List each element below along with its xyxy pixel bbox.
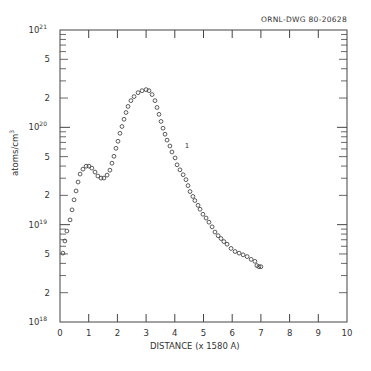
data-point — [110, 161, 114, 165]
y-tick-label: 2 — [45, 190, 50, 200]
data-point — [74, 189, 78, 193]
x-axis-label: DISTANCE (x 1580 A) — [150, 341, 240, 351]
data-point — [191, 195, 195, 199]
chart: 012345678910 1018251019251020251021 1 — [0, 0, 371, 371]
data-point — [90, 166, 94, 170]
y-tick-label: 5 — [45, 54, 50, 64]
x-tick-label: 8 — [287, 328, 292, 338]
x-tick-label: 3 — [143, 328, 148, 338]
data-point — [132, 95, 136, 99]
data-point — [118, 131, 122, 135]
data-point — [114, 146, 118, 150]
data-point — [150, 93, 154, 97]
y-axis-ticks — [60, 34, 347, 292]
data-point — [210, 225, 214, 229]
x-tick-label: 2 — [115, 328, 120, 338]
data-point — [163, 132, 167, 136]
y-tick-label: 5 — [45, 249, 50, 259]
data-point — [68, 218, 72, 222]
data-point — [241, 253, 245, 257]
data-point — [253, 259, 257, 263]
data-point — [108, 168, 112, 172]
data-point — [126, 105, 130, 109]
y-tick-label: 1019 — [29, 218, 48, 230]
data-point — [225, 242, 229, 246]
data-point — [81, 167, 85, 171]
y-axis-label-base: atoms/cm — [10, 134, 20, 176]
data-point — [78, 172, 82, 176]
data-point — [65, 229, 69, 233]
annotations: 1 — [185, 142, 189, 150]
data-point — [175, 163, 179, 167]
data-point — [120, 125, 124, 129]
data-point — [170, 150, 174, 154]
data-point — [122, 117, 126, 121]
data-point — [196, 203, 200, 207]
y-tick-label: 1018 — [29, 315, 48, 327]
data-point — [245, 255, 249, 259]
x-tick-label: 9 — [316, 328, 321, 338]
data-point — [249, 257, 253, 261]
data-point — [61, 251, 65, 255]
data-point — [198, 207, 202, 211]
x-tick-label: 0 — [57, 328, 62, 338]
data-point — [159, 120, 163, 124]
data-point — [168, 144, 172, 148]
data-point — [186, 184, 190, 188]
y-tick-label: 2 — [45, 93, 50, 103]
data-point — [219, 237, 223, 241]
y-axis-label-exp: 3 — [8, 130, 15, 134]
data-point — [193, 199, 197, 203]
y-axis-label: atoms/cm3 — [8, 130, 20, 176]
x-tick-label: 7 — [258, 328, 263, 338]
data-point — [140, 89, 144, 93]
curve-annotation: 1 — [185, 142, 189, 150]
data-point — [201, 212, 205, 216]
x-axis-tick-labels: 012345678910 — [57, 328, 352, 338]
data-point — [229, 247, 233, 251]
x-axis-ticks — [89, 30, 319, 322]
data-point — [112, 154, 116, 158]
data-point — [76, 180, 80, 184]
data-point — [116, 139, 120, 143]
x-tick-label: 1 — [86, 328, 91, 338]
data-point — [136, 91, 140, 95]
x-tick-label: 10 — [342, 328, 353, 338]
data-point — [161, 126, 165, 130]
data-point — [93, 170, 97, 174]
data-point — [233, 250, 237, 254]
y-axis-tick-labels: 1018251019251020251021 — [29, 23, 50, 327]
y-tick-label: 5 — [45, 152, 50, 162]
data-series-profile-1 — [61, 88, 263, 269]
data-point — [165, 138, 169, 142]
drawing-id: ORNL-DWG 80-20628 — [261, 15, 347, 24]
data-point — [124, 111, 128, 115]
data-point — [155, 106, 159, 110]
data-point — [213, 230, 217, 234]
data-point — [181, 173, 185, 177]
data-point — [105, 173, 109, 177]
data-point — [184, 178, 188, 182]
data-point — [153, 99, 157, 103]
data-point — [72, 198, 76, 202]
y-tick-label: 1021 — [29, 23, 48, 35]
data-point — [70, 208, 74, 212]
data-point — [204, 216, 208, 220]
x-tick-label: 6 — [229, 328, 234, 338]
data-point — [207, 220, 211, 224]
data-point — [173, 156, 177, 160]
data-point — [237, 251, 241, 255]
x-tick-label: 5 — [201, 328, 206, 338]
data-point — [178, 168, 182, 172]
y-tick-label: 1020 — [29, 120, 48, 132]
x-tick-label: 4 — [172, 328, 177, 338]
y-tick-label: 2 — [45, 288, 50, 298]
data-point — [188, 190, 192, 194]
data-point — [129, 99, 133, 103]
data-point — [157, 112, 161, 116]
